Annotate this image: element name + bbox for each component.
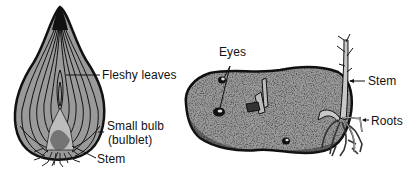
label-bulblet: (bulblet) <box>108 134 152 147</box>
potato-tuber <box>180 34 369 160</box>
label-onion-stem: Stem <box>97 153 125 166</box>
label-roots: Roots <box>371 115 403 128</box>
diagram-figure: Fleshy leaves Small bulb (bulblet) Stem … <box>0 0 418 182</box>
label-eyes: Eyes <box>219 46 246 59</box>
label-potato-stem: Stem <box>368 75 396 88</box>
label-small-bulb: Small bulb <box>107 120 164 133</box>
diagram-illustration <box>0 0 418 182</box>
onion-bulb <box>15 7 104 167</box>
label-fleshy-leaves: Fleshy leaves <box>102 69 177 82</box>
